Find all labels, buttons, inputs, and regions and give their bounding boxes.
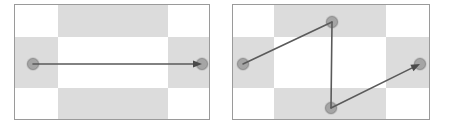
left-panel-checkerboard	[14, 4, 210, 120]
checker-cell	[14, 37, 58, 88]
right-panel-checkerboard	[232, 4, 430, 120]
checker-cell	[274, 88, 386, 120]
left-panel	[14, 4, 210, 120]
checker-cell	[58, 88, 168, 120]
checker-cell	[386, 37, 430, 88]
checker-cell	[168, 37, 210, 88]
right-panel	[232, 4, 430, 120]
checker-cell	[232, 37, 274, 88]
checker-cell	[274, 4, 386, 37]
figure-root	[0, 0, 449, 129]
checker-cell	[58, 4, 168, 37]
